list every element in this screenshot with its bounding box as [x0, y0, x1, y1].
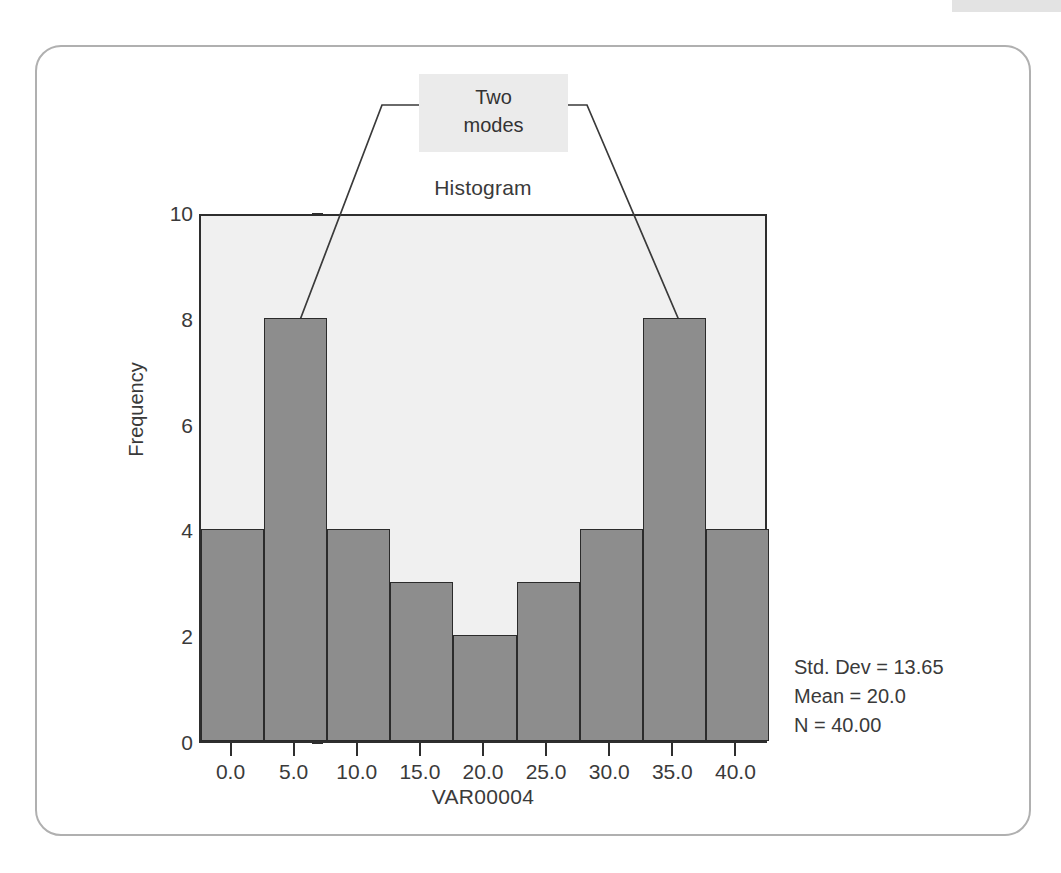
stat-n: N = 40.00 — [794, 711, 944, 740]
histogram-bar — [517, 582, 580, 741]
x-tick-mark — [482, 743, 484, 756]
histogram-bar — [264, 318, 327, 741]
histogram-bar — [706, 529, 769, 741]
y-tick-label: 2 — [133, 625, 193, 649]
histogram-bar — [201, 529, 264, 741]
bars-layer — [201, 216, 765, 741]
histogram-bar — [580, 529, 643, 741]
x-tick-mark — [545, 743, 547, 756]
x-axis-label: VAR00004 — [199, 785, 767, 809]
histogram-bar — [390, 582, 453, 741]
annotation-callout: Two modes — [419, 74, 568, 152]
histogram-bar — [327, 529, 390, 741]
x-tick-mark — [671, 743, 673, 756]
stat-mean: Mean = 20.0 — [794, 682, 944, 711]
x-tick-mark — [293, 743, 295, 756]
x-tick-mark — [734, 743, 736, 756]
stat-std-dev: Std. Dev = 13.65 — [794, 653, 944, 682]
chart-title: Histogram — [199, 176, 767, 200]
y-axis-ticks: 0246810 — [119, 214, 193, 743]
histogram-bar — [643, 318, 706, 741]
annotation-line-1: Two — [425, 83, 562, 111]
x-tick-mark — [419, 743, 421, 756]
x-tick-label: 40.0 — [695, 760, 775, 784]
x-tick-mark — [608, 743, 610, 756]
y-tick-label: 0 — [133, 731, 193, 755]
x-tick-mark — [230, 743, 232, 756]
y-tick-label: 6 — [133, 414, 193, 438]
statistics-block: Std. Dev = 13.65 Mean = 20.0 N = 40.00 — [794, 653, 944, 740]
histogram-bar — [453, 635, 516, 741]
histogram-chart: Histogram Frequency 0246810 0.05.010.015… — [0, 0, 1061, 873]
y-tick-label: 4 — [133, 519, 193, 543]
annotation-line-2: modes — [425, 111, 562, 139]
x-tick-mark — [356, 743, 358, 756]
y-tick-label: 10 — [133, 202, 193, 226]
y-tick-label: 8 — [133, 308, 193, 332]
plot-area — [199, 214, 767, 743]
